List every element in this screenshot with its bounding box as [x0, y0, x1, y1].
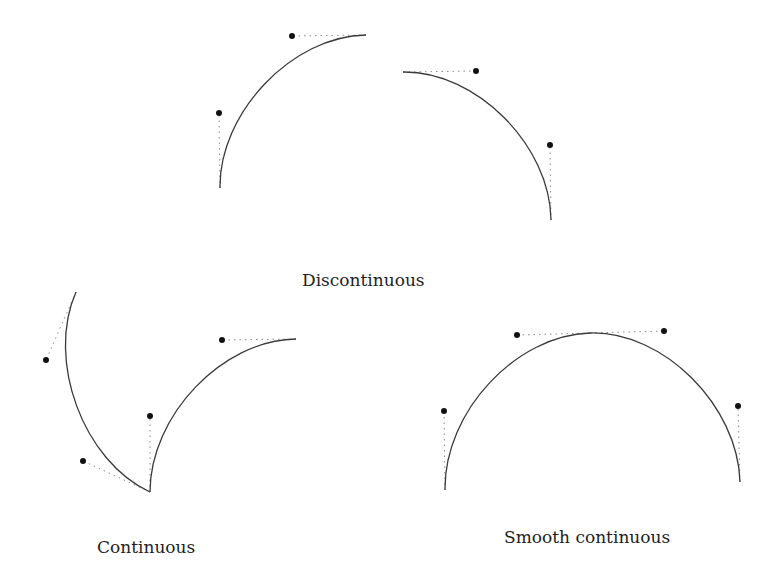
control-point [147, 413, 153, 419]
label-discontinuous: Discontinuous [302, 270, 425, 290]
figure-continuous [43, 292, 296, 492]
label-smooth-continuous: Smooth continuous [504, 527, 670, 547]
control-point [43, 357, 49, 363]
bezier-segment [65, 292, 150, 492]
control-point [289, 33, 295, 39]
bezier-segment [590, 333, 740, 482]
bezier-segment [220, 35, 366, 188]
bezier-segment [403, 72, 551, 220]
control-point [219, 337, 225, 343]
bezier-segment [150, 339, 296, 492]
figure-discontinuous [216, 33, 553, 220]
control-point [735, 403, 741, 409]
label-continuous: Continuous [97, 537, 195, 557]
control-point [216, 110, 222, 116]
control-point [661, 328, 667, 334]
control-point [441, 408, 447, 414]
control-point [473, 68, 479, 74]
control-point [80, 458, 86, 464]
control-point [547, 142, 553, 148]
control-point [514, 332, 520, 338]
bezier-segment [445, 333, 590, 490]
figure-smooth-continuous [441, 328, 741, 490]
